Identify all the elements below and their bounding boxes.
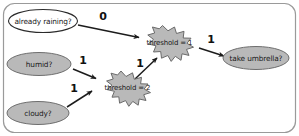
edge-threshold-2-to-threshold-1: 1	[135, 57, 157, 79]
node-already-raining[interactable]: already raining?	[9, 10, 78, 33]
node-threshold-2-label: threshold = 2	[105, 84, 151, 92]
node-cloudy-label: cloudy?	[24, 109, 51, 118]
node-cloudy[interactable]: cloudy?	[7, 102, 69, 125]
edge-cloudy-to-threshold-2: 1	[67, 82, 92, 107]
edge-weight-humid: 1	[79, 54, 87, 67]
node-take-umbrella[interactable]: take umbrella?	[223, 47, 289, 70]
threshold-network-diagram: 0 1 1 1 1 already raining?	[0, 0, 299, 136]
edge-weight-threshold-1: 1	[207, 33, 215, 46]
node-threshold-1[interactable]: threshold = 1	[147, 26, 194, 62]
node-take-umbrella-label: take umbrella?	[230, 54, 283, 63]
node-threshold-1-label: threshold = 1	[147, 39, 193, 47]
node-humid-label: humid?	[26, 60, 53, 69]
edge-threshold-1-to-take-umbrella: 1	[199, 33, 224, 56]
edge-weight-already-raining: 0	[99, 10, 107, 23]
node-threshold-2[interactable]: threshold = 2	[105, 71, 151, 106]
node-already-raining-label: already raining?	[14, 17, 71, 26]
node-humid[interactable]: humid?	[7, 53, 71, 76]
edge-already-raining-to-threshold-1: 0	[78, 10, 139, 38]
edge-weight-threshold-2: 1	[136, 57, 144, 70]
diagram-canvas: 0 1 1 1 1 already raining?	[0, 0, 299, 136]
edge-weight-cloudy: 1	[70, 82, 78, 95]
edge-humid-to-threshold-2: 1	[73, 54, 96, 79]
